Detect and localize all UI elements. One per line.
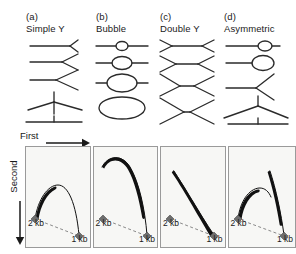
structure-column-asymmetric: (d) Asymmetric [222,0,296,126]
structure-column-double-y: (c) Double Y [158,0,224,126]
column-letter-a: (a) [26,11,38,22]
column-title-bubble: Bubble [96,23,126,34]
bubble-shape-stack [94,36,160,126]
first-dimension-label: First [20,130,38,141]
structure-schematics-panel: (a) Simple Y [0,0,296,126]
figure-root: (a) Simple Y [0,0,296,254]
second-dimension-axis: Second [2,145,24,245]
asymmetric-arc-thick-upper [267,170,282,225]
gel-panel-simple-y[interactable]: 2 kb 1 kb [25,146,91,248]
structure-column-bubble: (b) Bubble [94,0,160,126]
second-dimension-arrow-icon [15,149,25,249]
gel-label-1kb: 1 kb [71,235,87,244]
gel-label-2kb: 2 kb [28,219,44,228]
bubble-arc-thick [102,157,145,219]
column-letter-d: (d) [224,11,236,22]
gel-label-1kb: 1 kb [277,235,293,244]
gel-panel-double-y[interactable]: 2 kb 1 kb [160,146,226,248]
structure-column-simple-y: (a) Simple Y [24,0,90,126]
column-title-double-y: Double Y [160,23,200,34]
column-title-simple-y: Simple Y [26,23,65,34]
gel-label-2kb: 2 kb [96,219,112,228]
column-letter-b: (b) [96,11,108,22]
gel-panels-row: 2 kb 1 kb 2 kb 1 kb [25,146,296,248]
gel-panel-asymmetric[interactable]: 2 kb 1 kb [228,146,296,248]
asymmetric-shape-stack [222,36,296,126]
gel-label-2kb: 2 kb [231,219,247,228]
gel-panel-bubble[interactable]: 2 kb 1 kb [93,146,159,248]
gel-label-1kb: 1 kb [206,235,222,244]
double-y-shape-stack [158,36,224,126]
column-title-asymmetric: Asymmetric [224,23,275,34]
simple-y-shape-stack [24,36,90,126]
column-letter-c: (c) [160,11,171,22]
gel-label-1kb: 1 kb [139,235,155,244]
gel-label-2kb: 2 kb [163,219,179,228]
